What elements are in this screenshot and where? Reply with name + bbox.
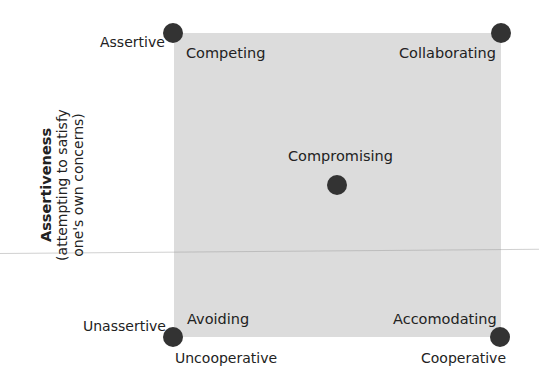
mode-accomodating-label: Accomodating	[393, 311, 497, 327]
x-axis-left-label: Uncooperative	[175, 350, 277, 366]
dot-top-right	[491, 23, 511, 43]
x-axis-right-label: Cooperative	[421, 350, 506, 366]
mode-competing-label: Competing	[186, 45, 265, 61]
dot-bottom-left	[163, 327, 183, 347]
mode-compromising-label: Compromising	[288, 148, 393, 164]
dot-bottom-right	[490, 327, 510, 347]
mode-avoiding-label: Avoiding	[187, 311, 249, 327]
mode-collaborating-label: Collaborating	[399, 45, 496, 61]
dot-center	[327, 175, 347, 195]
y-axis-title-block: Assertiveness (attempting to satisfy one…	[38, 109, 86, 261]
y-axis-top-label: Assertive	[100, 34, 165, 50]
y-axis-subtitle-line2: one's own concerns)	[70, 109, 86, 261]
y-axis-subtitle-line1: (attempting to satisfy	[54, 109, 70, 261]
dot-top-left	[163, 23, 183, 43]
y-axis-title: Assertiveness	[38, 109, 54, 261]
y-axis-bottom-label: Unassertive	[83, 318, 166, 334]
